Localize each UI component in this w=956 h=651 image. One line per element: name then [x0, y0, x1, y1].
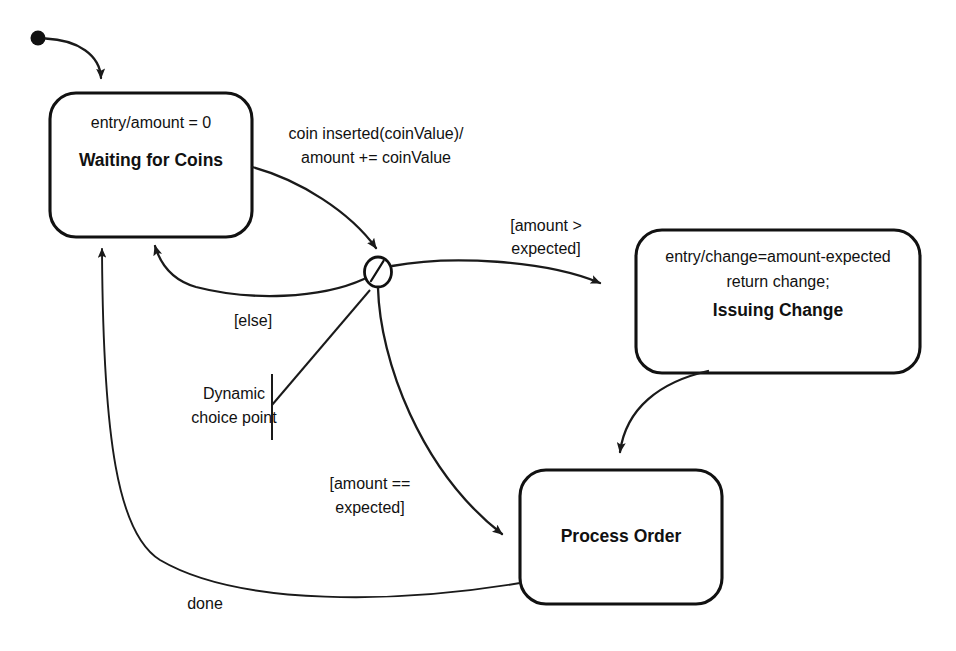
- transition-amount-equal-label-line1: [amount ==: [330, 475, 411, 492]
- dynamic-choice-point[interactable]: [365, 257, 392, 287]
- choice-point-annotation-leader: [272, 290, 370, 405]
- state-diagram-canvas: entry/amount = 0 Waiting for Coins coin …: [0, 0, 956, 651]
- state-waiting-for-coins[interactable]: entry/amount = 0 Waiting for Coins: [50, 93, 252, 237]
- state-process-order[interactable]: Process Order: [520, 470, 722, 604]
- transition-else: [else]: [155, 246, 364, 329]
- state-issuing-name: Issuing Change: [713, 300, 844, 320]
- initial-pseudostate: [31, 31, 102, 79]
- transition-done-path: [102, 249, 520, 597]
- transition-issuing-to-process: [620, 371, 708, 452]
- transition-coin-inserted: coin inserted(coinValue)/ amount += coin…: [252, 125, 464, 248]
- transition-coin-inserted-label-line1: coin inserted(coinValue)/: [289, 125, 464, 142]
- state-issuing-activity-1: return change;: [726, 273, 829, 290]
- transition-amount-equal: [amount == expected]: [330, 288, 502, 534]
- transition-amount-greater-label-line1: [amount >: [510, 217, 582, 234]
- state-issuing-activity-0: entry/change=amount-expected: [665, 248, 890, 265]
- choice-point-annotation: Dynamic choice point: [191, 290, 370, 440]
- transition-amount-equal-path: [378, 288, 502, 534]
- choice-point-annotation-line1: Dynamic: [203, 385, 265, 402]
- transition-amount-equal-label-line2: expected]: [335, 499, 404, 516]
- transition-amount-greater-label-line2: expected]: [511, 240, 580, 257]
- transition-done-label: done: [187, 595, 223, 612]
- state-waiting-activity-0: entry/amount = 0: [91, 114, 212, 131]
- state-waiting-name: Waiting for Coins: [79, 150, 223, 170]
- state-issuing-change[interactable]: entry/change=amount-expected return chan…: [636, 230, 920, 373]
- transition-issuing-to-process-path: [620, 371, 708, 452]
- transition-done: done: [102, 249, 520, 612]
- state-process-name: Process Order: [561, 526, 682, 546]
- initial-state-dot: [31, 31, 46, 46]
- transition-initial-to-waiting: [46, 39, 102, 79]
- transition-amount-greater: [amount > expected]: [392, 217, 600, 283]
- choice-point-annotation-line2: choice point: [191, 409, 277, 426]
- transition-else-path: [155, 246, 364, 296]
- transition-coin-inserted-path: [252, 167, 376, 248]
- diagram-svg: entry/amount = 0 Waiting for Coins coin …: [0, 0, 956, 651]
- transition-amount-greater-path: [392, 260, 600, 283]
- transition-coin-inserted-label-line2: amount += coinValue: [301, 149, 451, 166]
- choice-point-circle[interactable]: [365, 257, 392, 287]
- transition-else-label: [else]: [234, 312, 272, 329]
